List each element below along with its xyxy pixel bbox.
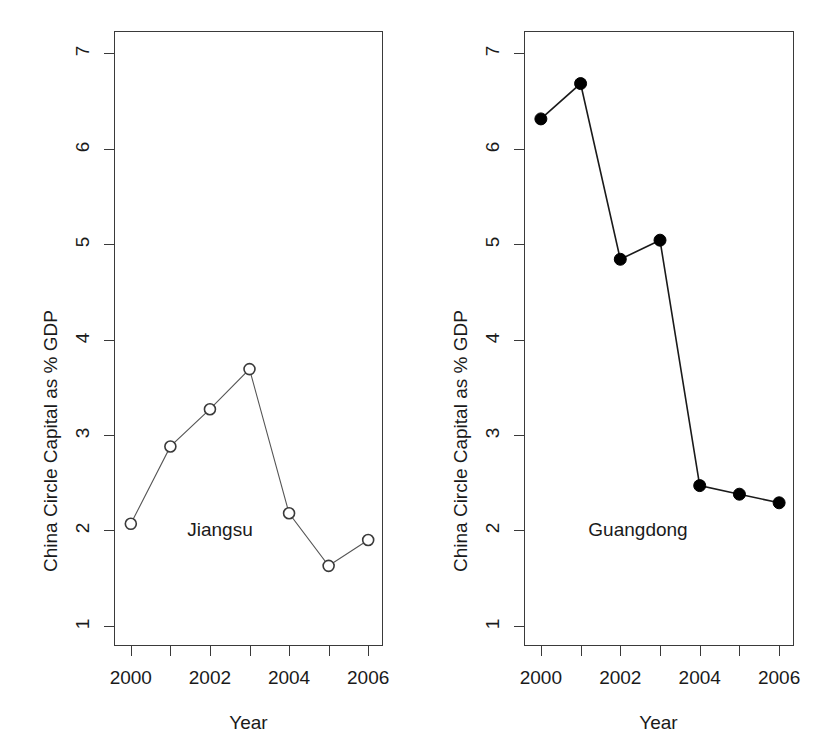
data-point bbox=[614, 253, 626, 265]
x-axis-tick-label: 2006 bbox=[744, 667, 814, 689]
y-axis-tick-label: 2 bbox=[482, 514, 504, 542]
x-axis-tick-label: 2006 bbox=[333, 667, 403, 689]
x-axis-tick bbox=[289, 645, 290, 656]
y-axis-tick-label: 6 bbox=[482, 133, 504, 161]
y-axis-tick-label: 4 bbox=[72, 324, 94, 352]
data-point bbox=[204, 404, 215, 415]
data-point bbox=[165, 441, 176, 452]
series-label-guangdong: Guangdong bbox=[588, 519, 687, 541]
y-axis-tick bbox=[104, 244, 115, 245]
data-point bbox=[733, 488, 745, 500]
data-point bbox=[535, 113, 547, 125]
x-axis-tick bbox=[541, 645, 542, 656]
x-axis-tick-label: 2004 bbox=[665, 667, 735, 689]
y-axis-title-right: China Circle Capital as % GDP bbox=[450, 310, 472, 572]
y-axis-tick bbox=[514, 530, 525, 531]
x-axis-title-right: Year bbox=[524, 712, 793, 734]
y-axis-tick-label: 5 bbox=[72, 228, 94, 256]
x-axis-tick bbox=[329, 645, 330, 656]
x-axis-tick bbox=[250, 645, 251, 656]
data-point bbox=[363, 535, 374, 546]
figure-canvas: China Circle Capital as % GDP 7654321200… bbox=[0, 0, 819, 756]
y-axis-tick-label: 2 bbox=[72, 514, 94, 542]
y-axis-tick bbox=[104, 435, 115, 436]
y-axis-tick-label: 6 bbox=[72, 133, 94, 161]
chart-panel-jiangsu: China Circle Capital as % GDP 7654321200… bbox=[0, 0, 410, 756]
y-axis-tick-label: 3 bbox=[482, 419, 504, 447]
x-axis-tick-label: 2000 bbox=[96, 667, 166, 689]
data-line bbox=[541, 84, 779, 503]
y-axis-tick-label: 1 bbox=[72, 610, 94, 638]
x-axis-tick bbox=[210, 645, 211, 656]
x-axis-tick-label: 2004 bbox=[254, 667, 324, 689]
y-axis-tick-label: 7 bbox=[72, 37, 94, 65]
data-point bbox=[773, 497, 785, 509]
x-axis-tick bbox=[620, 645, 621, 656]
data-point bbox=[575, 78, 587, 90]
y-axis-tick bbox=[104, 340, 115, 341]
y-axis-title-left: China Circle Capital as % GDP bbox=[40, 310, 62, 572]
series-label-jiangsu: Jiangsu bbox=[187, 519, 253, 541]
x-axis-tick-label: 2002 bbox=[175, 667, 245, 689]
y-axis-tick-label: 7 bbox=[482, 37, 504, 65]
data-point bbox=[244, 364, 255, 375]
y-axis-tick bbox=[514, 340, 525, 341]
y-axis-tick bbox=[514, 244, 525, 245]
y-axis-tick bbox=[104, 626, 115, 627]
y-axis-tick bbox=[514, 626, 525, 627]
y-axis-tick bbox=[104, 530, 115, 531]
y-axis-tick bbox=[104, 149, 115, 150]
x-axis-tick bbox=[779, 645, 780, 656]
series-plot-left bbox=[115, 32, 384, 647]
y-axis-tick-label: 3 bbox=[72, 419, 94, 447]
y-axis-tick bbox=[514, 149, 525, 150]
data-point bbox=[125, 518, 136, 529]
x-axis-tick bbox=[170, 645, 171, 656]
x-axis-title-left: Year bbox=[114, 712, 383, 734]
x-axis-tick bbox=[660, 645, 661, 656]
plot-area-right: 76543212000200220042006 bbox=[524, 31, 794, 646]
data-point bbox=[323, 560, 334, 571]
y-axis-tick-label: 1 bbox=[482, 610, 504, 638]
plot-area-left: 76543212000200220042006 bbox=[114, 31, 383, 646]
x-axis-tick bbox=[368, 645, 369, 656]
x-axis-tick bbox=[131, 645, 132, 656]
data-point bbox=[654, 234, 666, 246]
y-axis-tick bbox=[514, 435, 525, 436]
y-axis-tick bbox=[514, 53, 525, 54]
y-axis-tick-label: 5 bbox=[482, 228, 504, 256]
y-axis-tick-label: 4 bbox=[482, 324, 504, 352]
series-plot-right bbox=[525, 32, 795, 647]
data-point bbox=[284, 508, 295, 519]
x-axis-tick bbox=[581, 645, 582, 656]
x-axis-tick bbox=[700, 645, 701, 656]
x-axis-tick-label: 2000 bbox=[506, 667, 576, 689]
data-point bbox=[694, 480, 706, 492]
chart-panel-guangdong: China Circle Capital as % GDP 7654321200… bbox=[410, 0, 819, 756]
x-axis-tick-label: 2002 bbox=[585, 667, 655, 689]
x-axis-tick bbox=[739, 645, 740, 656]
y-axis-tick bbox=[104, 53, 115, 54]
